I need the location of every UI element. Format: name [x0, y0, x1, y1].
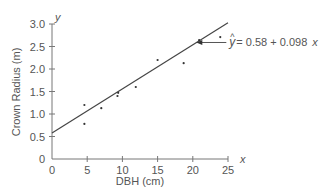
equation-x: x [311, 36, 318, 48]
x-tick-label: 5 [84, 164, 90, 176]
data-point [116, 95, 118, 97]
y-tick-label: 0.5 [30, 131, 45, 143]
scatter-chart: 051015202500.51.01.52.02.53.0 ^y= 0.58 +… [0, 0, 322, 195]
equation-text: = 0.58 + 0.098 [236, 36, 307, 48]
equation-y: y [228, 35, 236, 49]
y-axis-symbol: y [54, 11, 62, 23]
data-point [83, 123, 85, 125]
data-point [117, 92, 119, 94]
y-tick-label: 2.0 [30, 63, 45, 75]
equation-annotation: ^y= 0.58 + 0.098x [196, 32, 318, 49]
y-tick-label: 1.5 [30, 86, 45, 98]
data-point [100, 107, 102, 109]
data-point [183, 62, 185, 64]
y-tick-label: 0 [39, 153, 45, 165]
y-tick-label: 3.0 [30, 18, 45, 30]
y-tick-label: 1.0 [30, 108, 45, 120]
y-axis-label: Crown Radius (m) [10, 48, 22, 137]
x-tick-label: 20 [187, 164, 199, 176]
data-point [135, 86, 137, 88]
x-axis-label: DBH (cm) [116, 175, 164, 187]
data-point [83, 104, 85, 106]
data-point [198, 39, 200, 41]
axes: 051015202500.51.01.52.02.53.0 [30, 18, 234, 176]
regression-line [52, 23, 228, 133]
x-tick-label: 25 [222, 164, 234, 176]
data-point [157, 59, 159, 61]
data-points [83, 36, 221, 125]
data-point [219, 36, 221, 38]
x-tick-label: 0 [49, 164, 55, 176]
x-axis-symbol: x [239, 153, 246, 165]
y-tick-label: 2.5 [30, 41, 45, 53]
